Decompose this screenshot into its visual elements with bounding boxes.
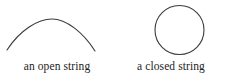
figure-container: an open string a closed string: [0, 0, 228, 83]
panel-open-string: an open string: [0, 0, 114, 83]
open-string-caption: an open string: [0, 59, 114, 74]
closed-string-circle-icon: [114, 0, 228, 58]
open-string-arc-icon: [0, 0, 114, 58]
panel-closed-string: a closed string: [114, 0, 228, 83]
closed-string-caption: a closed string: [114, 59, 228, 74]
